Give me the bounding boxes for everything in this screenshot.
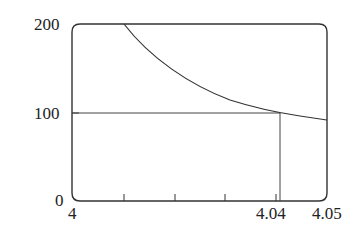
x-label-4-05: 4.05	[312, 205, 342, 222]
x-label-4: 4	[68, 205, 77, 222]
data-curve	[124, 24, 327, 120]
y-label-0: 0	[55, 192, 64, 209]
y-label-200: 200	[34, 16, 60, 33]
x-label-4-04: 4.04	[256, 205, 286, 222]
y-label-100: 100	[34, 105, 60, 122]
x-ticks	[124, 194, 276, 201]
